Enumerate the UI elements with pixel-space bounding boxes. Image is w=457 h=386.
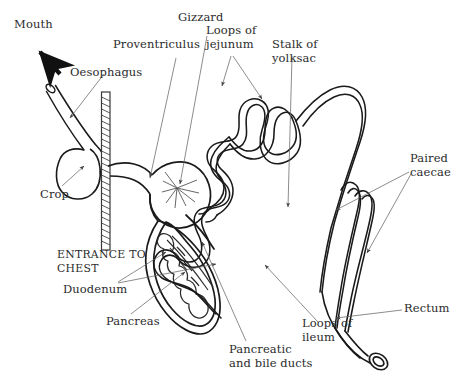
label-entrance-to-chest: ENTRANCE TO CHEST	[57, 248, 146, 275]
label-paired-caecae: Paired caecae	[410, 152, 451, 179]
oesophagus-tube	[45, 83, 95, 150]
leader-jejunum-a	[222, 56, 231, 86]
leader-gizzard	[180, 36, 207, 184]
label-duodenum: Duodenum	[63, 283, 127, 297]
jejunum-loops	[199, 99, 300, 222]
label-rectum: Rectum	[404, 302, 449, 316]
ileum-loops	[174, 137, 230, 267]
label-loops-of-jejunum: Loops of jejunum	[206, 24, 256, 51]
label-loops-of-ileum: Loops of ileum	[302, 317, 352, 344]
leader-proventriculus	[150, 58, 176, 178]
label-mouth: Mouth	[14, 18, 53, 32]
entrance-to-chest-hatched-band	[102, 92, 111, 250]
leader-ileum	[265, 265, 318, 322]
paired-caecae-tubes	[296, 86, 374, 332]
diagram-page: Mouth Oesophagus Proventriculus Gizzard …	[0, 0, 457, 386]
label-stalk-of-yolksac: Stalk of yolksac	[272, 38, 318, 65]
leader-crop	[62, 166, 84, 186]
leader-jejunum-b	[233, 56, 262, 99]
label-oesophagus: Oesophagus	[70, 66, 142, 80]
leader-yolksac	[288, 56, 292, 207]
mouth-direction-arrow	[40, 52, 60, 74]
gizzard-interior-radiating-lines	[162, 172, 199, 208]
label-pancreas: Pancreas	[106, 315, 160, 329]
leader-pancreatic-ducts	[202, 242, 246, 341]
pancreas-lobules	[157, 234, 208, 318]
label-pancreatic-and-bile-ducts: Pancreatic and bile ducts	[229, 343, 313, 370]
label-crop: Crop	[40, 188, 69, 202]
leader-oesophagus	[70, 74, 104, 118]
leader-pancreas	[131, 272, 185, 314]
label-proventriculus: Proventriculus	[113, 38, 200, 52]
